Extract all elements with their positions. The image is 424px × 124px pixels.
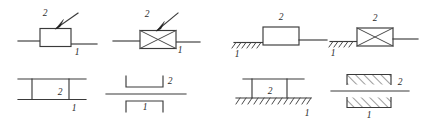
symbol-prismatic-pair-open-rails: 2 1 xyxy=(18,79,86,113)
slider-block xyxy=(263,27,299,45)
lower-hatched-jaw xyxy=(347,98,391,108)
label-link-2: 2 xyxy=(58,87,63,97)
label-link-2: 2 xyxy=(373,13,378,23)
label-link-2: 2 xyxy=(268,86,273,96)
symbol-slider-plain-with-arrow: 2 1 xyxy=(18,8,97,58)
label-link-2: 2 xyxy=(398,77,403,87)
upper-hatched-jaw xyxy=(347,75,391,85)
label-link-1: 1 xyxy=(305,108,310,118)
symbol-prismatic-pair-grounded-rails: 2 1 xyxy=(236,79,311,118)
diagram-svg: 2 1 2 1 xyxy=(0,0,424,124)
symbol-prismatic-pair-brackets: 2 1 xyxy=(106,76,186,112)
diagram-canvas: 2 1 2 1 xyxy=(0,0,424,124)
symbol-slider-crossed-grounded: 2 1 xyxy=(329,13,418,59)
ground-hatching-icon xyxy=(329,42,353,48)
label-link-2: 2 xyxy=(145,9,150,19)
label-link-1: 1 xyxy=(367,110,372,120)
label-link-1: 1 xyxy=(72,103,77,113)
label-link-2: 2 xyxy=(279,12,284,22)
upper-bracket xyxy=(126,76,163,87)
label-link-1: 1 xyxy=(235,49,240,59)
slider-block xyxy=(40,29,71,47)
symbol-slider-crossed-with-arrow: 2 1 xyxy=(113,9,200,56)
ground-hatching-icon xyxy=(236,98,311,104)
label-link-2: 2 xyxy=(43,8,48,18)
label-link-1: 1 xyxy=(75,47,80,57)
symbol-prismatic-pair-hatched-jaws: 2 1 xyxy=(331,75,409,121)
label-link-1: 1 xyxy=(178,45,183,55)
label-link-2: 2 xyxy=(168,76,173,86)
symbol-slider-plain-grounded: 2 1 xyxy=(232,12,327,59)
label-link-1: 1 xyxy=(143,102,148,112)
label-link-1: 1 xyxy=(331,48,336,58)
ground-hatching-icon xyxy=(232,43,261,49)
arrow-head-icon xyxy=(156,21,164,31)
